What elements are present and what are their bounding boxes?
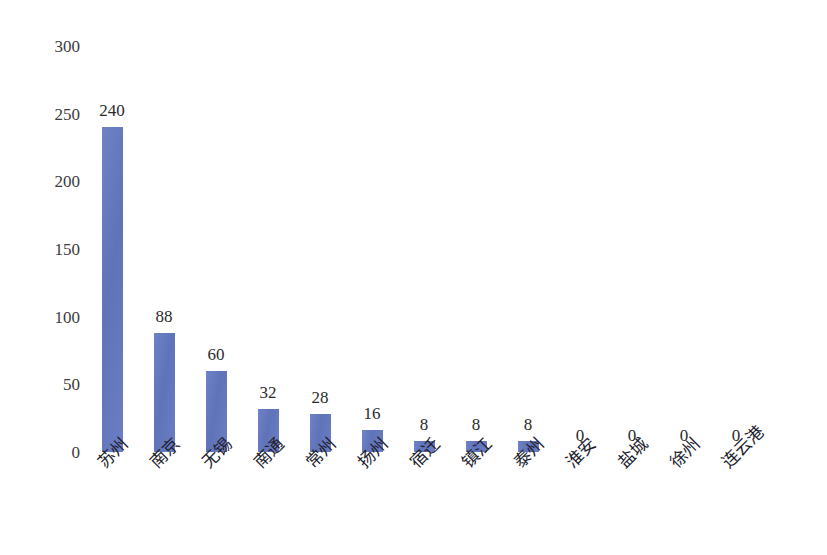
y-axis-tick-label: 200	[34, 173, 80, 190]
y-axis-tick-label: 0	[34, 444, 80, 461]
bar-chart: 300250200150100500 24088603228168880000 …	[0, 0, 827, 555]
x-axis-tick-label: 常州	[302, 421, 352, 471]
x-axis-tick-label: 扬州	[354, 421, 404, 471]
x-axis-tick-label: 泰州	[510, 421, 560, 471]
y-axis-tick-label: 50	[34, 376, 80, 393]
y-axis-tick-label: 300	[34, 38, 80, 55]
y-axis: 300250200150100500	[30, 0, 80, 555]
x-axis-tick-label: 苏州	[94, 421, 144, 471]
x-axis-tick-label: 连云港	[718, 421, 768, 471]
x-axis-tick-label: 盐城	[614, 421, 664, 471]
y-axis-tick-label: 100	[34, 309, 80, 326]
x-axis: 苏州南京无锡南通常州扬州宿迁镇江泰州淮安盐城徐州连云港	[86, 0, 806, 555]
x-axis-tick-label: 南通	[250, 421, 300, 471]
x-axis-tick-label: 无锡	[198, 421, 248, 471]
x-axis-tick-label: 镇江	[458, 421, 508, 471]
x-axis-tick-label: 淮安	[562, 421, 612, 471]
x-axis-tick-label: 宿迁	[406, 421, 456, 471]
y-axis-tick-label: 250	[34, 106, 80, 123]
x-axis-tick-label: 徐州	[666, 421, 716, 471]
x-axis-tick-label: 南京	[146, 421, 196, 471]
y-axis-tick-label: 150	[34, 241, 80, 258]
